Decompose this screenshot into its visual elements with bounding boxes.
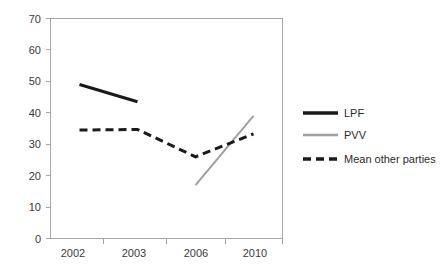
pvv-line	[196, 116, 254, 185]
legend-label-pvv: PVV	[344, 129, 367, 141]
y-axis-label-40: 40	[29, 107, 41, 119]
legend: LPF PVV Mean other parties	[303, 107, 436, 165]
y-axis-label-60: 60	[29, 44, 41, 56]
chart-canvas: 70 60 50 40 30 20 10 0 2002 2003 2006 20…	[0, 0, 447, 273]
plot-border	[51, 19, 283, 239]
plot-area-frame	[51, 19, 283, 239]
legend-label-lpf: LPF	[344, 107, 364, 119]
x-axis-label-2006: 2006	[184, 247, 208, 259]
x-axis-label-2002: 2002	[61, 247, 85, 259]
legend-label-mean-other-parties: Mean other parties	[344, 153, 436, 165]
y-axis-label-0: 0	[35, 233, 41, 245]
line-chart: 70 60 50 40 30 20 10 0 2002 2003 2006 20…	[0, 0, 447, 273]
mean-other-parties-line	[80, 129, 254, 156]
y-axis-label-20: 20	[29, 170, 41, 182]
y-axis-label-50: 50	[29, 75, 41, 87]
y-axis-label-70: 70	[29, 13, 41, 25]
x-axis: 2002 2003 2006 2010	[61, 239, 283, 260]
series-lpf	[80, 85, 138, 102]
x-axis-label-2010: 2010	[243, 247, 267, 259]
y-axis-label-10: 10	[29, 201, 41, 213]
y-axis-label-30: 30	[29, 138, 41, 150]
series-pvv	[196, 116, 254, 185]
x-axis-label-2003: 2003	[122, 247, 146, 259]
y-axis: 70 60 50 40 30 20 10 0	[29, 13, 51, 245]
series-mean-other-parties	[80, 129, 254, 156]
lpf-line	[80, 85, 138, 102]
